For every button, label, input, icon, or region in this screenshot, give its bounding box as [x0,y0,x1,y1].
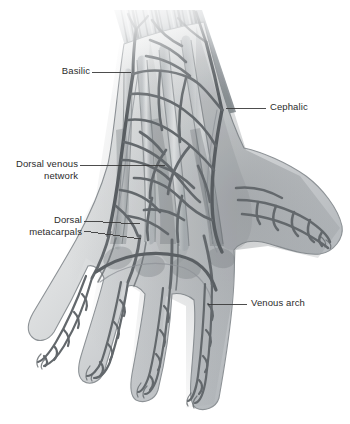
label-basilic: Basilic [38,65,90,77]
label-dorsal-metacarpals: Dorsal metacarpals [8,214,82,237]
label-cephalic: Cephalic [270,101,342,113]
label-venous-arch: Venous arch [251,297,341,309]
anatomy-figure: Basilic Cephalic Dorsal venous network D… [0,0,350,424]
label-dorsal-venous-network: Dorsal venous network [4,158,78,181]
hand-venous-illustration [0,0,350,424]
